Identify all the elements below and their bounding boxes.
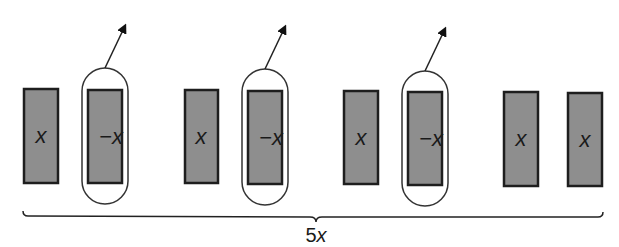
tile-x-1: x [24, 89, 58, 183]
tile-label: −x [259, 125, 284, 150]
tile-x-5: x [568, 93, 602, 186]
brace-label: 5x [305, 224, 327, 246]
brace [23, 211, 603, 222]
tile-x-4: x [504, 92, 538, 186]
tile-x-2: x [185, 90, 218, 183]
algebra-tiles-diagram: x −x x −x x −x x x 5x [0, 0, 619, 247]
tile-label: −x [419, 126, 444, 151]
tile-label: x [579, 127, 592, 152]
remove-arrow-icon [425, 31, 444, 71]
tile-label: x [35, 123, 48, 148]
tile-x-3: x [344, 91, 378, 184]
tile-label: x [515, 126, 528, 151]
tile-neg-x-3-group: −x [402, 31, 448, 206]
tile-label: x [355, 125, 368, 150]
tile-neg-x-1-group: −x [82, 28, 128, 204]
tile-label: x [195, 124, 208, 149]
tile-label: −x [99, 124, 124, 149]
remove-arrow-icon [105, 28, 124, 68]
tile-neg-x-2-group: −x [242, 29, 288, 205]
remove-arrow-icon [265, 29, 284, 69]
